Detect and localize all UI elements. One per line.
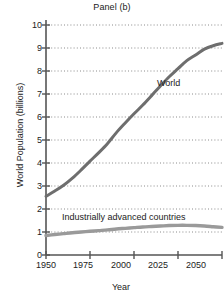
y-tick-label-6: 6 bbox=[24, 113, 42, 122]
y-tick-label-1: 1 bbox=[24, 228, 42, 237]
y-tick-label-9: 9 bbox=[24, 44, 42, 53]
x-tick-label-1975: 1975 bbox=[66, 261, 100, 270]
y-tick-label-5: 5 bbox=[24, 136, 42, 145]
x-tick-label-2000: 2000 bbox=[104, 261, 138, 270]
series-label-world: World bbox=[157, 78, 180, 88]
y-tick-label-4: 4 bbox=[24, 159, 42, 168]
x-tick-label-1950: 1950 bbox=[29, 261, 63, 270]
series-label-industrially-advanced-countries: Industrially advanced countries bbox=[62, 212, 186, 222]
y-tick-label-0: 0 bbox=[24, 251, 42, 260]
series-line-industrially-advanced-countries bbox=[46, 225, 222, 235]
chart-title: Panel (b) bbox=[0, 2, 224, 12]
x-tick-label-2025: 2025 bbox=[141, 261, 175, 270]
y-tick-label-7: 7 bbox=[24, 90, 42, 99]
y-tick-label-3: 3 bbox=[24, 182, 42, 191]
x-tick-label-2050: 2050 bbox=[179, 261, 213, 270]
chart-figure: Panel (b) World Population (billions) Ye… bbox=[0, 0, 224, 300]
y-tick-label-2: 2 bbox=[24, 205, 42, 214]
series-line-world bbox=[46, 43, 222, 196]
y-tick-label-8: 8 bbox=[24, 67, 42, 76]
x-axis-label: Year bbox=[46, 282, 196, 292]
y-tick-label-10: 10 bbox=[24, 21, 42, 30]
